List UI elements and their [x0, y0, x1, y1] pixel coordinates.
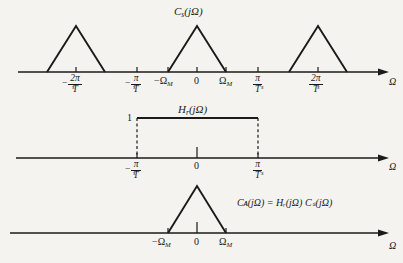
- den-sub-6: s: [261, 170, 264, 177]
- axis-label-panel1: Ω: [389, 77, 396, 87]
- den-sub-4: s: [317, 84, 320, 91]
- ticklabel-zero-panel2: 0: [194, 161, 199, 171]
- panel2-title: Hr(jΩ): [178, 104, 207, 117]
- filter-amplitude-label: 1: [127, 113, 132, 123]
- den-sub-5: s: [133, 170, 136, 177]
- axis-arrow-panel2: [378, 155, 389, 162]
- ticklabel-neg-omega-M-panel3: −ΩM: [152, 237, 171, 249]
- axis-arrow-panel3: [378, 230, 389, 237]
- ticklabel-omega-M: ΩM: [219, 76, 232, 88]
- panel1-title: Cs(jΩ): [174, 6, 203, 19]
- panel-sampled-spectrum: [18, 26, 389, 75]
- ticklabel-neg-omega-M: −ΩM: [154, 76, 173, 88]
- ticklabel-omega-M-panel3: ΩM: [219, 237, 232, 249]
- ticklabel-zero-panel3: 0: [194, 237, 199, 247]
- signal-spectrum-figure: [0, 0, 403, 263]
- axis-label-panel2: Ω: [389, 162, 396, 172]
- spectrum-replica-right: [289, 26, 347, 72]
- ticklabel-two-pi-over-Ts: 2πT: [309, 74, 323, 94]
- panel3-equation: Cᴀ(jΩ) = Hᵣ(jΩ) Cₛ(jΩ): [237, 198, 332, 208]
- axis-label-panel3: Ω: [389, 241, 396, 251]
- axis-arrow-panel1: [378, 69, 389, 76]
- panel-reconstruction-filter: [16, 118, 389, 161]
- den-sub-3: s: [261, 84, 264, 91]
- den-sub-2: s: [133, 84, 136, 91]
- spectrum-replica-left: [47, 26, 105, 72]
- ticklabel-zero-panel1: 0: [194, 76, 199, 86]
- den-sub-1: s: [72, 84, 75, 91]
- panel-reconstructed-spectrum: [10, 186, 389, 236]
- spectrum-replica-center: [168, 26, 226, 72]
